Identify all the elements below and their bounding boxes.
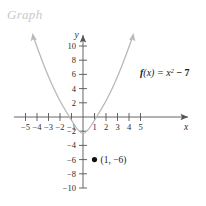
x-tick-label: −3 <box>44 122 53 132</box>
y-tick-label: −2 <box>67 126 76 136</box>
x-tick-label: 4 <box>127 122 132 132</box>
function-label: f(x) = x2 − 7 <box>140 67 190 80</box>
x-axis-label: x <box>183 122 189 132</box>
function-label-tail: − 7 <box>174 67 190 78</box>
y-tick-label: 4 <box>72 84 77 94</box>
y-tick-label: 6 <box>72 69 76 79</box>
y-axis-label: y <box>73 30 79 40</box>
x-tick-label: −4 <box>32 122 42 132</box>
x-tick-label: 2 <box>104 122 108 132</box>
x-axis-tick-labels: −5 −4 −3 −2 −1 1 2 3 4 5 <box>21 122 143 132</box>
x-tick-label: 3 <box>115 122 119 132</box>
y-tick-label: −10 <box>63 183 76 193</box>
plotted-point-label: (1, −6) <box>101 155 127 166</box>
y-tick-label: −8 <box>67 169 76 179</box>
y-tick-label: 8 <box>72 55 76 65</box>
curve-right-arrow-icon <box>129 33 135 42</box>
function-label-arg: (x) = <box>143 67 166 79</box>
y-tick-label: −4 <box>67 140 77 150</box>
axis-lines <box>14 35 188 188</box>
x-tick-label: −2 <box>55 122 64 132</box>
coordinate-plane: −5 −4 −3 −2 −1 1 2 3 4 5 10 8 6 4 2 −2 −… <box>0 0 206 206</box>
y-tick-label: 10 <box>68 41 77 51</box>
curve-left-arrow-icon <box>31 33 37 42</box>
y-tick-label: −6 <box>67 155 76 165</box>
x-tick-label: −5 <box>21 122 30 132</box>
graph-figure: Graph <box>0 0 206 206</box>
x-tick-label: 5 <box>138 122 142 132</box>
plotted-point-marker <box>92 157 97 162</box>
y-tick-label: 2 <box>72 98 76 108</box>
